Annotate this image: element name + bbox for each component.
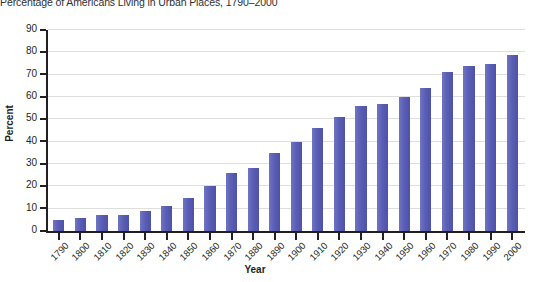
bar[interactable] — [161, 206, 172, 231]
y-axis-tick: 40 — [26, 141, 46, 142]
y-axis-tick: 50 — [26, 118, 46, 119]
y-tick-label: 50 — [26, 113, 37, 123]
x-tick-mark — [425, 232, 427, 240]
y-tick-label: 70 — [26, 69, 37, 79]
x-tick-mark — [252, 232, 254, 240]
bar[interactable] — [204, 186, 215, 231]
bar-slot[interactable] — [334, 30, 345, 231]
x-tick-mark — [209, 232, 211, 240]
x-tick-mark — [166, 232, 168, 240]
bar[interactable] — [226, 173, 237, 231]
x-tick-label: 1940 — [368, 240, 394, 266]
x-tick-label: 1840 — [152, 240, 178, 266]
y-tick-mark — [40, 140, 46, 142]
x-tick-mark — [295, 232, 297, 240]
bar-slot[interactable] — [312, 30, 323, 231]
x-tick-label: 1790 — [44, 240, 70, 266]
bar-slot[interactable] — [399, 30, 410, 231]
x-tick-mark — [144, 232, 146, 240]
bar-slot[interactable] — [355, 30, 366, 231]
bar[interactable] — [248, 168, 259, 231]
chart-title: Percentage of Americans Living in Urban … — [0, 0, 535, 9]
y-axis-ticks: 0102030405060708090 — [0, 30, 46, 231]
bar[interactable] — [355, 106, 366, 231]
bar-slot[interactable] — [485, 30, 496, 231]
x-tick-label: 1970 — [433, 240, 459, 266]
bar[interactable] — [291, 142, 302, 231]
y-tick-mark — [40, 73, 46, 75]
bar[interactable] — [377, 104, 388, 231]
x-axis-ticks — [48, 232, 523, 240]
x-tick-label: 1800 — [66, 240, 92, 266]
x-tick-mark — [274, 232, 276, 240]
bar[interactable] — [463, 66, 474, 231]
y-tick-label: 30 — [26, 158, 37, 168]
x-tick-label: 1860 — [196, 240, 222, 266]
bar[interactable] — [485, 64, 496, 232]
x-tick-label: 1820 — [109, 240, 135, 266]
bar-slot[interactable] — [291, 30, 302, 231]
y-axis-tick: 60 — [26, 96, 46, 97]
y-tick-mark — [40, 118, 46, 120]
y-axis-tick: 10 — [26, 208, 46, 209]
bar-slot[interactable] — [53, 30, 64, 231]
y-tick-mark — [40, 230, 46, 232]
bar[interactable] — [75, 218, 86, 231]
y-axis-tick: 90 — [26, 29, 46, 30]
x-tick-mark — [511, 232, 513, 240]
x-tick-mark — [403, 232, 405, 240]
bar-slot[interactable] — [463, 30, 474, 231]
x-tick-label: 1960 — [411, 240, 437, 266]
bar-slot[interactable] — [204, 30, 215, 231]
y-tick-label: 90 — [26, 24, 37, 34]
bar[interactable] — [53, 220, 64, 231]
bar[interactable] — [96, 215, 107, 231]
y-axis-tick: 80 — [26, 51, 46, 52]
bar[interactable] — [420, 88, 431, 231]
bar-slot[interactable] — [377, 30, 388, 231]
x-tick-label: 1810 — [88, 240, 114, 266]
bar[interactable] — [507, 55, 518, 231]
bar[interactable] — [312, 128, 323, 231]
x-tick-mark — [101, 232, 103, 240]
bar-slot[interactable] — [140, 30, 151, 231]
x-tick-mark — [58, 232, 60, 240]
y-tick-label: 60 — [26, 91, 37, 101]
bar[interactable] — [140, 211, 151, 231]
x-tick-label: 1930 — [347, 240, 373, 266]
bar[interactable] — [183, 198, 194, 232]
bar[interactable] — [118, 215, 129, 231]
bar-slot[interactable] — [118, 30, 129, 231]
y-axis-tick: 0 — [31, 230, 46, 231]
x-tick-label: 1850 — [174, 240, 200, 266]
x-tick-label: 1900 — [282, 240, 308, 266]
bar[interactable] — [399, 97, 410, 231]
bar[interactable] — [442, 72, 453, 231]
bar-slot[interactable] — [226, 30, 237, 231]
y-tick-label: 20 — [26, 180, 37, 190]
bar-slot[interactable] — [269, 30, 280, 231]
y-axis-tick: 30 — [26, 163, 46, 164]
bar[interactable] — [334, 117, 345, 231]
bar-slot[interactable] — [75, 30, 86, 231]
y-tick-mark — [40, 51, 46, 53]
y-tick-mark — [40, 207, 46, 209]
x-tick-mark — [360, 232, 362, 240]
x-tick-mark — [187, 232, 189, 240]
x-tick-mark — [338, 232, 340, 240]
bar-slot[interactable] — [96, 30, 107, 231]
bar-slot[interactable] — [183, 30, 194, 231]
bar-slot[interactable] — [420, 30, 431, 231]
bar-series — [48, 30, 523, 231]
bar-slot[interactable] — [442, 30, 453, 231]
bar-slot[interactable] — [248, 30, 259, 231]
bar-slot[interactable] — [507, 30, 518, 231]
x-tick-label: 1890 — [260, 240, 286, 266]
x-tick-mark — [490, 232, 492, 240]
bar-slot[interactable] — [161, 30, 172, 231]
x-tick-label: 1830 — [131, 240, 157, 266]
x-tick-mark — [123, 232, 125, 240]
y-tick-label: 0 — [31, 225, 37, 235]
x-tick-label: 1880 — [239, 240, 265, 266]
bar[interactable] — [269, 153, 280, 231]
